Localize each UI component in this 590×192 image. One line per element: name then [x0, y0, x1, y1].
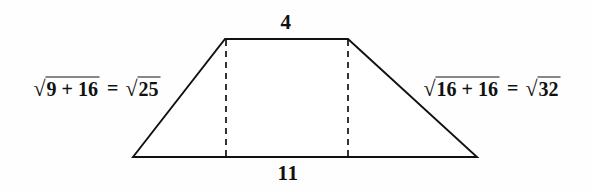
radical-sign-icon: √	[525, 78, 537, 101]
right-leg-radicand: 16 + 16	[436, 77, 500, 100]
left-leg-result-radical: √ 25	[125, 77, 160, 100]
radical-sign-icon: √	[424, 78, 436, 101]
right-leg-result-radicand: 32	[537, 77, 560, 100]
geometry-figure: 4 11 √ 9 + 16 = √ 25 √ 16 + 16 = √ 32	[0, 0, 590, 192]
right-leg-equals-sign: =	[507, 78, 518, 98]
left-leg-expression: √ 9 + 16 = √ 25	[34, 77, 161, 100]
left-leg-result-radicand: 25	[137, 77, 160, 100]
right-leg-radical: √ 16 + 16	[424, 77, 500, 100]
right-leg-result-radical: √ 32	[525, 77, 560, 100]
left-leg-radicand: 9 + 16	[46, 77, 100, 100]
radical-sign-icon: √	[125, 78, 137, 101]
left-leg-radical: √ 9 + 16	[34, 77, 100, 100]
right-leg-expression: √ 16 + 16 = √ 32	[424, 77, 561, 100]
top-edge-length-label: 4	[281, 12, 292, 33]
bottom-edge-length-label: 11	[278, 163, 299, 184]
left-leg-equals-sign: =	[107, 78, 118, 98]
radical-sign-icon: √	[34, 78, 46, 101]
